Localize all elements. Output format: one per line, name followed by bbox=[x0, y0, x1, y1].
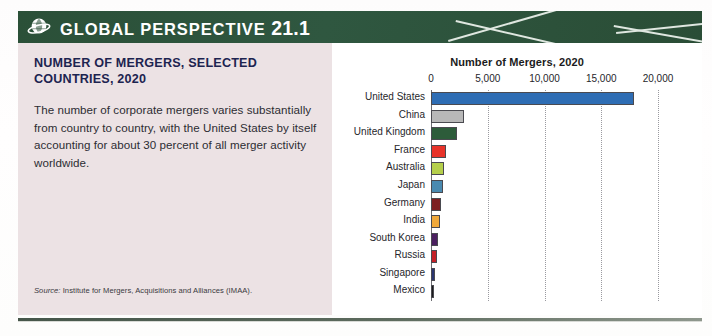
source-note: Source: Institute for Mergers, Acquisiti… bbox=[34, 286, 324, 295]
header-number: 21.1 bbox=[271, 17, 310, 39]
globe-icon bbox=[27, 15, 51, 39]
category-label: France bbox=[394, 144, 425, 155]
bar-row: Russia bbox=[332, 248, 702, 266]
category-label: China bbox=[399, 109, 425, 120]
category-label: United Kingdom bbox=[354, 126, 425, 137]
bar-row: Singapore bbox=[332, 266, 702, 284]
category-label: Germany bbox=[384, 197, 425, 208]
bar bbox=[431, 250, 437, 263]
bar-row: Japan bbox=[332, 178, 702, 196]
bar-row: Australia bbox=[332, 160, 702, 178]
category-label: South Korea bbox=[369, 232, 425, 243]
category-label: Australia bbox=[386, 161, 425, 172]
x-tick-4: 20,000 bbox=[643, 73, 674, 84]
bar bbox=[431, 268, 435, 281]
panel-title: NUMBER OF MERGERS, SELECTED COUNTRIES, 2… bbox=[34, 55, 314, 87]
bar-row: Mexico bbox=[332, 283, 702, 301]
bar bbox=[431, 198, 441, 211]
bar bbox=[431, 233, 438, 246]
bar-rows: United StatesChinaUnited KingdomFranceAu… bbox=[332, 90, 702, 301]
category-label: United States bbox=[365, 91, 425, 102]
x-tick-3: 15,000 bbox=[586, 73, 617, 84]
bar-chart: Number of Mergers, 2020 05,00010,00015,0… bbox=[332, 43, 702, 315]
text-panel: NUMBER OF MERGERS, SELECTED COUNTRIES, 2… bbox=[18, 43, 332, 315]
figure-header-band: GLOBAL PERSPECTIVE 21.1 bbox=[18, 11, 702, 43]
source-text: Institute for Mergers, Acquisitions and … bbox=[63, 286, 252, 295]
bar bbox=[431, 110, 464, 123]
bar bbox=[431, 285, 434, 298]
bar bbox=[431, 92, 634, 105]
bar-row: Germany bbox=[332, 196, 702, 214]
header-title: GLOBAL PERSPECTIVE 21.1 bbox=[60, 17, 310, 40]
bar bbox=[431, 127, 457, 140]
x-axis-tick-labels: 05,00010,00015,00020,000 bbox=[332, 73, 702, 87]
chart-title: Number of Mergers, 2020 bbox=[332, 56, 702, 68]
bar-row: United Kingdom bbox=[332, 125, 702, 143]
x-tick-2: 10,000 bbox=[529, 73, 560, 84]
bar-row: United States bbox=[332, 90, 702, 108]
category-label: Mexico bbox=[393, 284, 425, 295]
x-tick-0: 0 bbox=[428, 73, 434, 84]
bar-row: France bbox=[332, 143, 702, 161]
category-label: Japan bbox=[398, 179, 425, 190]
x-tick-1: 5,000 bbox=[475, 73, 500, 84]
bar-row: South Korea bbox=[332, 231, 702, 249]
source-label: Source: bbox=[34, 286, 61, 295]
bar bbox=[431, 162, 444, 175]
bar-row: India bbox=[332, 213, 702, 231]
global-perspective-figure: GLOBAL PERSPECTIVE 21.1 NUMBER OF MERGER… bbox=[0, 0, 712, 336]
header-label: GLOBAL PERSPECTIVE bbox=[60, 20, 266, 38]
bottom-rule-shadow bbox=[18, 321, 702, 322]
category-label: India bbox=[403, 214, 425, 225]
bar-row: China bbox=[332, 108, 702, 126]
panel-body-text: The number of corporate mergers varies s… bbox=[34, 101, 318, 171]
category-label: Singapore bbox=[379, 267, 425, 278]
bar bbox=[431, 215, 440, 228]
bar bbox=[431, 180, 443, 193]
bar bbox=[431, 145, 446, 158]
category-label: Russia bbox=[394, 249, 425, 260]
